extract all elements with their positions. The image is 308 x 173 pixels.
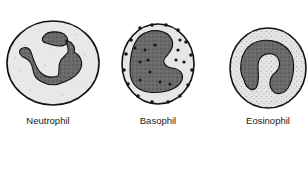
- neutrophil-cell: [7, 21, 99, 105]
- basophil-cell: [122, 23, 194, 104]
- eosinophil-cell: [230, 28, 306, 108]
- label-basophil: Basophil: [140, 115, 176, 126]
- label-eosinophil: Eosinophil: [246, 115, 290, 126]
- label-neutrophil: Neutrophil: [26, 115, 69, 126]
- cell-diagram: [0, 0, 308, 173]
